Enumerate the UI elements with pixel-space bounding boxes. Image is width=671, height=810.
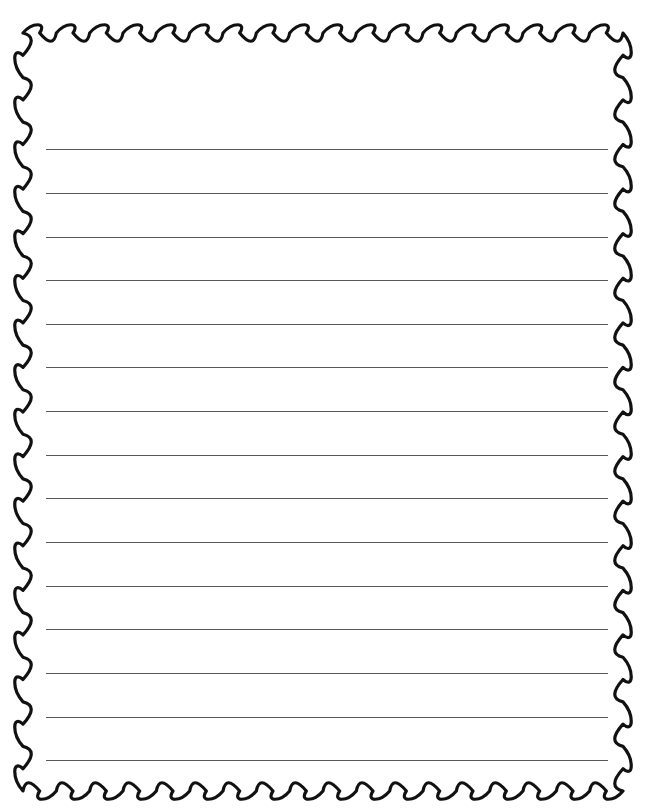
- writing-line: [46, 324, 608, 325]
- writing-line: [46, 455, 608, 456]
- writing-line: [46, 629, 608, 630]
- writing-line: [46, 760, 608, 761]
- writing-line: [46, 498, 608, 499]
- writing-lines-layer: [0, 0, 671, 810]
- writing-line: [46, 149, 608, 150]
- writing-line: [46, 280, 608, 281]
- writing-line: [46, 673, 608, 674]
- writing-line: [46, 193, 608, 194]
- writing-line: [46, 237, 608, 238]
- writing-line: [46, 542, 608, 543]
- ruled-paper-sheet: [0, 0, 671, 810]
- writing-line: [46, 367, 608, 368]
- writing-line: [46, 586, 608, 587]
- writing-line: [46, 411, 608, 412]
- writing-line: [46, 717, 608, 718]
